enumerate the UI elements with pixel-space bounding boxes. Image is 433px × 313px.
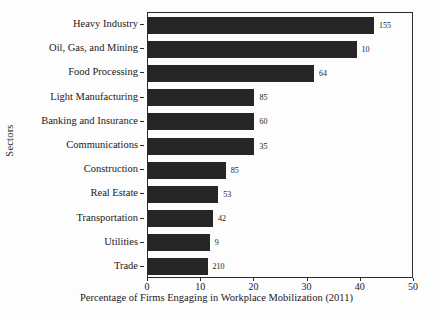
bar	[148, 162, 226, 179]
bar-value-label: 155	[379, 17, 391, 34]
bar-value-label: 85	[259, 89, 267, 106]
x-axis-tick-label: 50	[408, 281, 418, 292]
bar-value-label: 85	[231, 162, 239, 179]
category-label-trade: Trade	[114, 259, 138, 273]
x-axis-tick-label: 30	[302, 281, 312, 292]
y-axis-tick	[140, 145, 144, 146]
bar	[148, 210, 213, 227]
category-label-food-processing: Food Processing	[68, 65, 138, 79]
category-label-utilities: Utilities	[104, 235, 138, 249]
bar-value-label: 64	[319, 65, 327, 82]
bar	[148, 41, 357, 58]
y-axis-tick	[140, 97, 144, 98]
x-axis-tick-label: 40	[355, 281, 365, 292]
bar-value-label: 210	[213, 258, 225, 275]
x-axis-tick-label: 10	[195, 281, 205, 292]
category-label-oil-gas-and-mining: Oil, Gas, and Mining	[49, 41, 138, 55]
bar-value-label: 35	[259, 138, 267, 155]
bar	[148, 234, 210, 251]
bar-chart-figure: Sectors Heavy IndustryOil, Gas, and Mini…	[0, 0, 433, 313]
category-label-construction: Construction	[84, 162, 138, 176]
y-axis-tick	[140, 169, 144, 170]
bar	[148, 186, 218, 203]
bar	[148, 89, 254, 106]
category-label-real-estate: Real Estate	[90, 186, 138, 200]
bar	[148, 65, 314, 82]
bar-value-label: 10	[362, 41, 370, 58]
y-axis-tick	[140, 193, 144, 194]
y-axis-title-text: Sectors	[4, 124, 15, 156]
category-label-transportation: Transportation	[77, 211, 138, 225]
bar-value-label: 53	[223, 186, 231, 203]
plot-area: 15510648560358553429210	[147, 12, 413, 278]
y-axis-tick	[140, 242, 144, 243]
bar-value-label: 42	[218, 210, 226, 227]
y-axis-tick	[140, 48, 144, 49]
category-label-light-manufacturing: Light Manufacturing	[50, 90, 138, 104]
y-axis-tick	[140, 266, 144, 267]
bar-value-label: 9	[215, 234, 219, 251]
bars-container: 15510648560358553429210	[148, 13, 412, 277]
category-label-communications: Communications	[66, 138, 138, 152]
x-axis-tick-label: 0	[145, 281, 150, 292]
bar	[148, 258, 208, 275]
category-label-banking-and-insurance: Banking and Insurance	[41, 114, 138, 128]
x-axis-tick-label: 20	[248, 281, 258, 292]
category-label-heavy-industry: Heavy Industry	[73, 17, 138, 31]
x-axis-title: Percentage of Firms Engaging in Workplac…	[0, 292, 433, 303]
y-axis-tick	[140, 121, 144, 122]
category-label-column: Heavy IndustryOil, Gas, and MiningFood P…	[18, 12, 144, 278]
y-axis-tick	[140, 72, 144, 73]
bar	[148, 138, 254, 155]
y-axis-title: Sectors	[0, 0, 18, 280]
y-axis-tick	[140, 24, 144, 25]
bar	[148, 113, 254, 130]
y-axis-tick	[140, 218, 144, 219]
bar-value-label: 60	[259, 113, 267, 130]
bar	[148, 17, 374, 34]
